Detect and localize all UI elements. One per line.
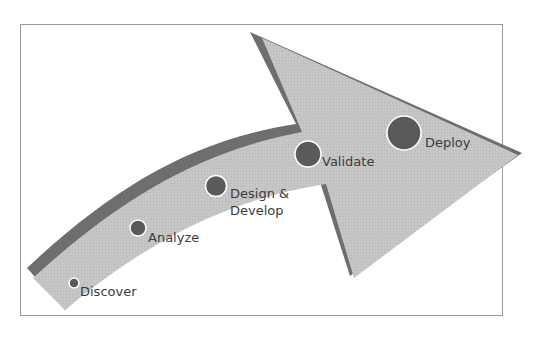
stage-dot-deploy (387, 116, 421, 150)
stage-label-develop: Develop (230, 203, 284, 218)
stage-dot-design (206, 176, 227, 197)
stage-label-analyze: Analyze (148, 230, 199, 245)
stage-label-deploy: Deploy (425, 135, 471, 150)
stage-dot-analyze (130, 220, 146, 236)
stage-dot-validate (295, 141, 321, 167)
stage-label-design: Design & (230, 186, 289, 201)
stage-label-discover: Discover (80, 284, 137, 299)
stage-dot-discover (69, 278, 79, 288)
stage-label-validate: Validate (322, 154, 374, 169)
